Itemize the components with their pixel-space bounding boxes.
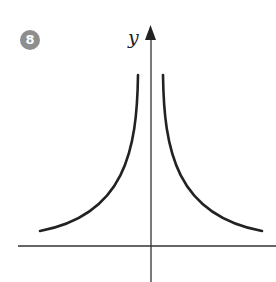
curve-left-branch xyxy=(40,75,138,231)
curve-right-branch xyxy=(163,75,262,231)
question-number-badge: 8 xyxy=(20,30,40,50)
y-axis-label: y xyxy=(128,26,139,48)
y-axis-arrow-icon xyxy=(145,25,156,40)
graph-figure: 8 y xyxy=(0,0,276,282)
